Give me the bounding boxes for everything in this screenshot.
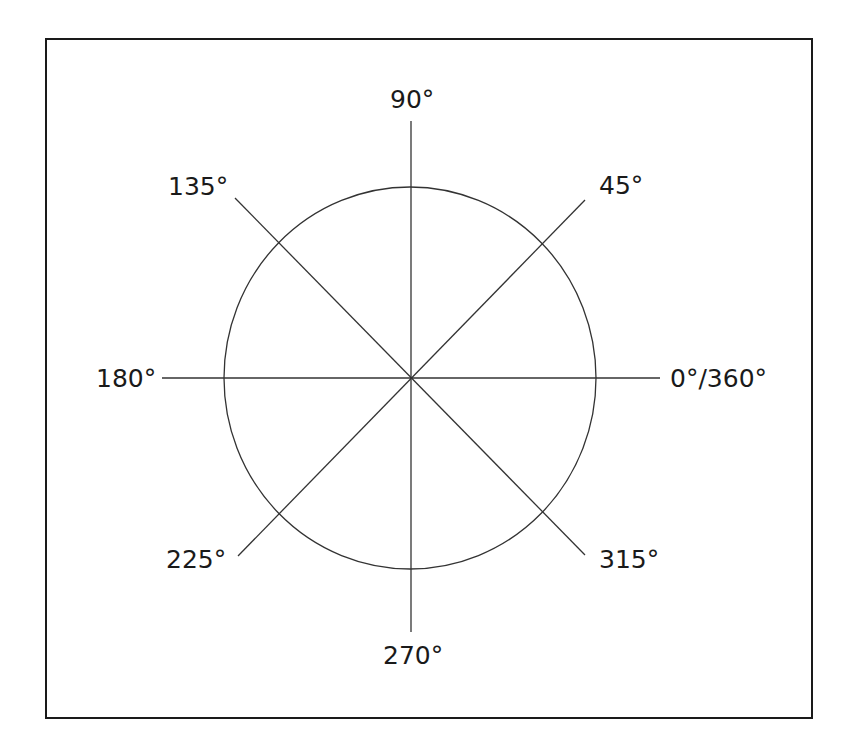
label-90-degrees: 90° <box>390 87 434 112</box>
label-270-degrees: 270° <box>383 643 443 668</box>
diagonal-line-135-315 <box>235 198 585 555</box>
label-180-degrees: 180° <box>96 366 156 391</box>
label-315-degrees: 315° <box>599 547 659 572</box>
label-45-degrees: 45° <box>599 173 643 198</box>
label-225-degrees: 225° <box>166 547 226 572</box>
label-0-360-degrees: 0°/360° <box>670 366 767 391</box>
label-135-degrees: 135° <box>168 174 228 199</box>
